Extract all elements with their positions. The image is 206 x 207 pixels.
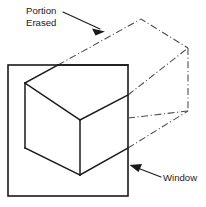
phantom-upper-diagonal (128, 48, 188, 95)
phantom-bottom-diagonal (128, 111, 188, 148)
portion-erased-leader-line (63, 12, 100, 29)
box-top-left-edge (25, 65, 58, 83)
window-arrow-icon (130, 164, 143, 172)
portion-erased-label-line2: Erased (26, 17, 56, 28)
box-top-front-right-edge (80, 95, 128, 120)
box-bottom-left-edge (25, 148, 80, 175)
window-label: Window (163, 172, 197, 183)
technical-drawing-canvas: Portion Erased Window (0, 0, 206, 207)
portion-erased-label-line1: Portion (26, 5, 56, 16)
portion-erased-arrow-icon (92, 29, 105, 36)
box-bottom-right-edge (80, 148, 128, 175)
phantom-top-edge (58, 19, 188, 65)
figure-root: Portion Erased Window (0, 0, 206, 207)
box-top-front-left-edge (25, 83, 80, 120)
window-rectangle (8, 65, 128, 196)
